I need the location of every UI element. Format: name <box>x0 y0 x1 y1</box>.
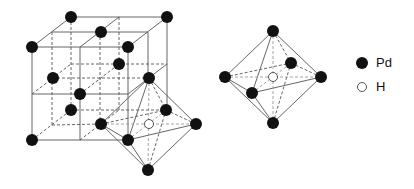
legend-pd-icon <box>356 57 368 69</box>
legend-h-icon <box>358 83 367 92</box>
lattice-diagram <box>0 0 414 189</box>
legend-h-label: H <box>376 79 385 94</box>
legend-pd-label: Pd <box>376 55 392 70</box>
